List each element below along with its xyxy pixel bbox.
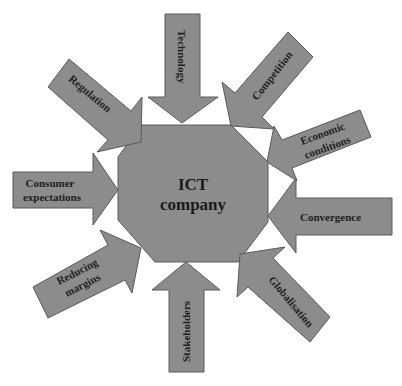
arrow-technology: Technology — [148, 14, 218, 123]
center-label-line2: company — [160, 195, 227, 214]
arrow-stakeholders: Stakeholders — [152, 262, 220, 372]
arrow-convergence: Convergence — [268, 178, 392, 253]
center-label-line1: ICT — [178, 175, 209, 194]
forces-diagram: Technology Stakeholders Consumer expecta… — [0, 0, 402, 386]
arrow-globalisation: Globalisation — [237, 247, 330, 342]
label-consumer-line2: expectations — [23, 191, 82, 203]
arrow-competition: Competition — [222, 32, 313, 129]
arrow-economic-conditions: Economic conditions — [267, 110, 371, 181]
label-consumer-line1: Consumer — [26, 177, 75, 189]
label-stakeholders: Stakeholders — [180, 300, 192, 362]
label-technology: Technology — [176, 30, 188, 84]
arrow-reducing-margins: Reducing margins — [33, 230, 141, 318]
arrow-consumer-expectations: Consumer expectations — [13, 153, 118, 225]
arrow-regulation: Regulation — [48, 59, 142, 152]
label-convergence: Convergence — [300, 211, 361, 223]
